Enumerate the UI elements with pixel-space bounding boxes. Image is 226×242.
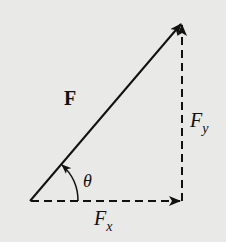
vector-label-f: F [64, 88, 76, 108]
resultant-vector-f [30, 24, 181, 201]
angle-arc [62, 165, 78, 201]
fy-subscript: y [202, 121, 208, 136]
angle-label-theta: θ [83, 172, 92, 190]
vector-diagram: F θ Fy Fx [0, 0, 226, 242]
fx-main: F [94, 207, 106, 229]
fy-main: F [190, 109, 202, 131]
y-component-label: Fy [190, 110, 208, 130]
x-component-label: Fx [94, 208, 112, 228]
fx-subscript: x [106, 219, 112, 234]
